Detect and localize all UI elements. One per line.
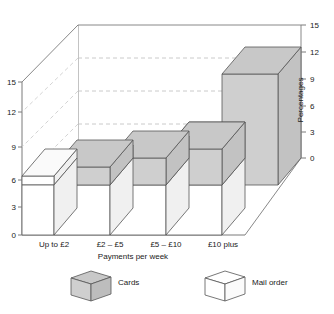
left-tick-0: 0: [12, 231, 17, 240]
left-tick-6: 6: [12, 176, 17, 185]
right-tick-9: 9: [310, 75, 315, 84]
bar-chart-3d: 15 12 9 6 3 0 15 12 9 6 3 0 Percentages: [0, 0, 334, 314]
category-label-3: £5 – £10: [150, 240, 182, 249]
right-tick-6: 6: [310, 102, 315, 111]
legend-item-cards[interactable]: Cards: [71, 271, 139, 301]
left-tick-3: 3: [12, 203, 17, 212]
gray-cube-icon: [71, 271, 111, 301]
legend-label-mail-order: Mail order: [252, 278, 288, 287]
right-axis-title: Percentages: [296, 78, 305, 123]
category-label-1: Up to £2: [39, 240, 70, 249]
legend: Cards Mail order: [71, 271, 288, 301]
category-axis-group: Up to £2 £2 – £5 £5 – £10 £10 plus Payme…: [39, 240, 238, 261]
left-tick-15: 15: [7, 78, 16, 87]
white-cube-icon: [205, 271, 245, 301]
chart-container: 15 12 9 6 3 0 15 12 9 6 3 0 Percentages: [0, 0, 334, 314]
right-tick-3: 3: [310, 128, 315, 137]
left-tick-9: 9: [12, 143, 17, 152]
category-label-2: £2 – £5: [97, 240, 124, 249]
legend-label-cards: Cards: [118, 278, 139, 287]
category-axis-title: Payments per week: [98, 252, 169, 261]
right-tick-0: 0: [310, 154, 315, 163]
right-tick-12: 12: [310, 48, 319, 57]
right-tick-15: 15: [310, 21, 319, 30]
legend-item-mail-order[interactable]: Mail order: [205, 271, 288, 301]
category-label-4: £10 plus: [208, 240, 238, 249]
left-axis-group: 15 12 9 6 3 0: [7, 78, 22, 240]
left-tick-12: 12: [7, 108, 16, 117]
